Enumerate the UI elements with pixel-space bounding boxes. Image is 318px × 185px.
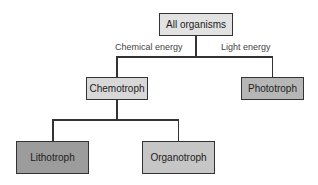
node-label: All organisms — [166, 19, 226, 30]
node-lithotroph: Lithotroph — [16, 141, 89, 174]
connector-root-stem — [195, 35, 197, 57]
edge-label-chemical-energy: Chemical energy — [115, 42, 183, 52]
node-label: Phototroph — [248, 83, 297, 94]
connector-level2-bar — [52, 119, 179, 121]
node-phototroph: Phototroph — [241, 77, 304, 100]
connector-to-phototroph — [272, 56, 274, 77]
node-organotroph: Organotroph — [142, 141, 215, 174]
node-all-organisms: All organisms — [159, 13, 233, 36]
connector-level1-bar — [116, 56, 273, 58]
connector-to-organotroph — [178, 119, 180, 141]
node-chemotroph: Chemotroph — [86, 77, 148, 100]
connector-chemotroph-stem — [116, 99, 118, 120]
edge-label-light-energy: Light energy — [221, 42, 271, 52]
node-label: Chemotroph — [89, 83, 144, 94]
connector-to-lithotroph — [52, 119, 54, 141]
node-label: Lithotroph — [30, 152, 74, 163]
connector-to-chemotroph — [116, 56, 118, 77]
node-label: Organotroph — [150, 152, 206, 163]
